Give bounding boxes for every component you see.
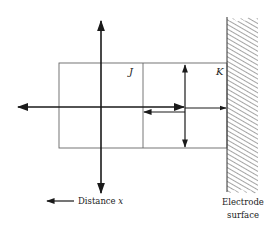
distance-label: Distance x [78,196,123,206]
electrode-block [227,17,258,194]
distance-text: Distance [78,196,118,206]
distance-variable: x [118,196,123,206]
electrode-label-line1: Electrode [222,197,264,207]
electrode-label-line2: surface [227,210,259,220]
electrode-diagram: J K Distance x Electrode surface [0,0,277,230]
volume-element-box [59,63,227,148]
region-k-label: K [215,66,224,77]
region-j-label: J [127,66,134,77]
